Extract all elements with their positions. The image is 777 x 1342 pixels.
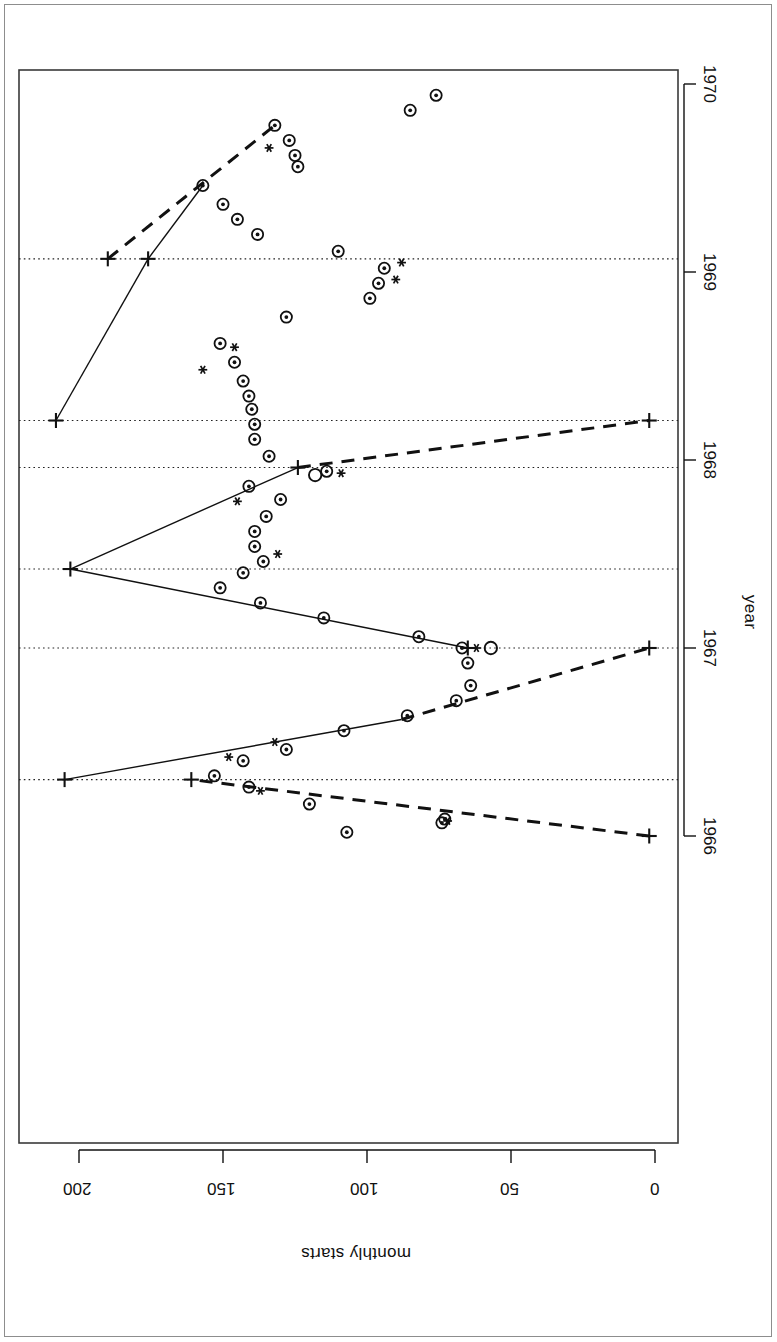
figure-page: 1970 1969 1968 1967 1966 year 200 150 10… (0, 0, 777, 1342)
ytick-label-150: 150 (207, 1178, 235, 1198)
year-axis (684, 84, 696, 836)
fitted-trend-lines (56, 125, 649, 836)
ytick-label-50: 50 (500, 1178, 519, 1198)
ytick-label-200: 200 (63, 1178, 91, 1198)
plot-frame (19, 70, 678, 1143)
ytick-label-100: 100 (350, 1178, 378, 1198)
open-circle-markers (309, 469, 497, 654)
x-axis-title: year (740, 595, 760, 629)
chart-canvas (0, 0, 777, 1342)
xtick-label-1969: 1969 (699, 253, 719, 291)
xtick-label-1966: 1966 (699, 817, 719, 855)
xtick-label-1968: 1968 (699, 441, 719, 479)
ytick-label-0: 0 (650, 1178, 659, 1198)
y-axis-title: monthly starts (301, 1243, 411, 1263)
reference-lines (19, 259, 678, 780)
xtick-label-1970: 1970 (699, 65, 719, 103)
xtick-label-1967: 1967 (699, 629, 719, 667)
observation-circle-markers (197, 90, 476, 838)
monthly-starts-axis (79, 1150, 655, 1163)
endpoint-plus-markers (48, 251, 656, 843)
